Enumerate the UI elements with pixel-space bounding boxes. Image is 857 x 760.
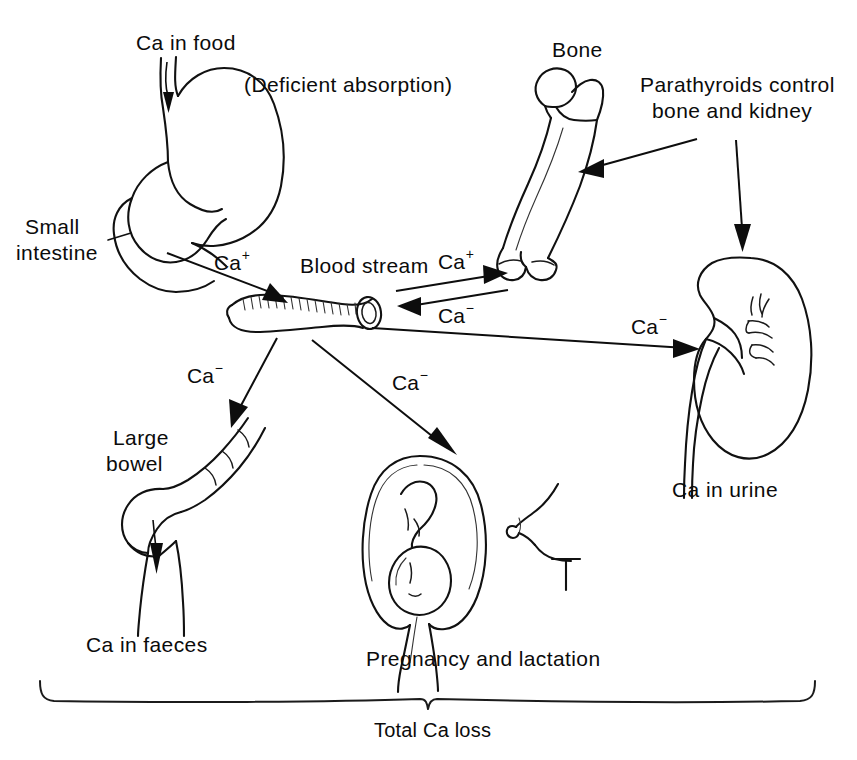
label-ca-in-faeces: Ca in faeces — [86, 632, 208, 657]
label-ca-in-urine: Ca in urine — [672, 477, 778, 502]
blood-vessel-organ — [227, 295, 383, 332]
flow-blood-to-pregnancy — [312, 340, 457, 455]
label-total-ca-loss: Total Ca loss — [374, 718, 491, 743]
ion-label-bone-to-blood: Ca− — [438, 303, 474, 328]
ion-label-blood-to-bone: Ca+ — [438, 249, 474, 274]
ion-species: Ca — [438, 250, 465, 273]
label-large-bowel-line1: Large — [113, 425, 169, 450]
calcium-metabolism-figure: Ca in food (Deficient absorption) Small … — [0, 0, 857, 760]
leader-small-intestine — [108, 233, 131, 240]
label-ca-in-food: Ca in food — [136, 30, 236, 55]
label-deficient-absorption: (Deficient absorption) — [244, 72, 452, 97]
ion-label-blood-to-kidney: Ca− — [631, 314, 667, 339]
ion-species: Ca — [214, 251, 241, 274]
ion-label-blood-to-uterus: Ca− — [392, 370, 428, 395]
femur-organ — [497, 68, 603, 280]
ion-species: Ca — [438, 304, 465, 327]
ion-charge: − — [215, 360, 223, 376]
flow-food-into-stomach — [163, 62, 174, 113]
label-blood-stream: Blood stream — [300, 253, 429, 278]
label-parathyroids-line2: bone and kidney — [652, 98, 812, 123]
label-small-intestine-line2: intestine — [16, 240, 98, 265]
label-pregnancy-and-lactation: Pregnancy and lactation — [366, 646, 601, 671]
ion-label-intestine-to-blood: Ca+ — [214, 250, 250, 275]
flow-blood-to-large-bowel — [229, 338, 277, 428]
ion-species: Ca — [392, 371, 419, 394]
ion-label-blood-to-bowel: Ca− — [187, 363, 223, 388]
ion-charge: − — [466, 300, 474, 316]
ion-charge: + — [242, 247, 250, 263]
breast-organ — [507, 484, 580, 590]
ion-charge: − — [659, 311, 667, 327]
ion-charge: − — [420, 367, 428, 383]
label-parathyroids-line1: Parathyroids control — [640, 72, 835, 97]
ion-species: Ca — [187, 364, 214, 387]
ion-charge: + — [466, 246, 474, 262]
flow-parathyroids-to-kidney — [734, 140, 751, 252]
label-small-intestine-line1: Small — [25, 214, 80, 239]
label-large-bowel-line2: bowel — [106, 451, 163, 476]
label-bone: Bone — [552, 37, 603, 62]
ion-species: Ca — [631, 315, 658, 338]
kidney-organ — [684, 258, 811, 498]
total-ca-loss-brace — [40, 681, 815, 709]
flow-parathyroids-to-bone — [578, 139, 697, 178]
